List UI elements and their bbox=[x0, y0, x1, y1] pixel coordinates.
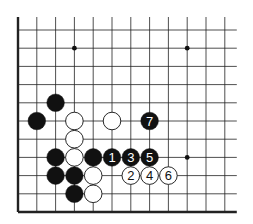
white-stone bbox=[66, 130, 84, 148]
black-stone bbox=[66, 167, 84, 185]
move-number: 4 bbox=[146, 168, 153, 183]
black-stone bbox=[66, 185, 84, 203]
star-point bbox=[185, 155, 190, 160]
move-number: 3 bbox=[127, 150, 134, 165]
black-stone-1: 1 bbox=[103, 149, 121, 167]
white-stone-2: 2 bbox=[122, 167, 140, 185]
black-stone bbox=[47, 94, 65, 112]
move-number: 7 bbox=[146, 114, 153, 129]
black-stone bbox=[47, 167, 65, 185]
black-stone-5: 5 bbox=[141, 149, 159, 167]
black-stone bbox=[84, 149, 102, 167]
white-stone bbox=[66, 112, 84, 130]
stones: 7135246 bbox=[28, 94, 177, 203]
black-stone-7: 7 bbox=[141, 112, 159, 130]
white-stone-6: 6 bbox=[160, 167, 178, 185]
white-stone bbox=[84, 185, 102, 203]
go-board: 7135246 bbox=[0, 0, 253, 224]
white-stone bbox=[103, 112, 121, 130]
move-number: 6 bbox=[165, 168, 172, 183]
black-stone bbox=[28, 112, 46, 130]
white-stone bbox=[66, 149, 84, 167]
black-stone-3: 3 bbox=[122, 149, 140, 167]
move-number: 2 bbox=[127, 168, 134, 183]
star-point bbox=[72, 46, 77, 51]
white-stone-4: 4 bbox=[141, 167, 159, 185]
star-point bbox=[185, 46, 190, 51]
move-number: 1 bbox=[108, 150, 115, 165]
black-stone bbox=[47, 149, 65, 167]
white-stone bbox=[84, 167, 102, 185]
move-number: 5 bbox=[146, 150, 153, 165]
